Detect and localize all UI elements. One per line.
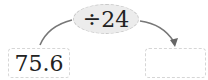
- input-value: 75.6: [15, 51, 64, 76]
- arc-right: [140, 21, 174, 42]
- answer-box[interactable]: [145, 48, 206, 78]
- arrow-head-icon: [170, 38, 178, 47]
- operation-label: ÷24: [83, 7, 129, 32]
- input-box: 75.6: [8, 48, 70, 78]
- arc-left: [40, 20, 72, 45]
- operation-bubble: ÷24: [73, 4, 139, 34]
